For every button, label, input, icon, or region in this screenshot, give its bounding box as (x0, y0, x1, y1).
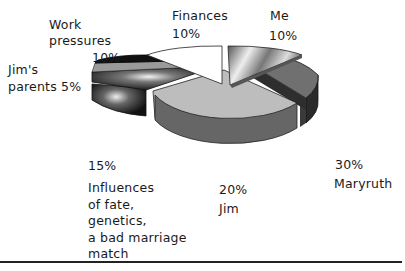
label-work-pressures-pct: 10% (92, 50, 120, 66)
bottom-rule (0, 261, 402, 263)
label-maryruth-pct: 30% (335, 157, 363, 173)
label-work-pressures-2: pressures (49, 33, 111, 49)
label-work-pressures: Work (49, 17, 81, 33)
label-finances: Finances (172, 8, 228, 24)
label-me-pct: 10% (269, 28, 297, 44)
label-maryruth: Maryruth (334, 176, 392, 192)
label-influences: Influences of fate, genetics, a bad marr… (88, 180, 187, 263)
label-me: Me (270, 8, 289, 24)
label-finances-pct: 10% (172, 26, 200, 42)
label-influences-pct: 15% (88, 158, 116, 174)
label-jims-parents-2: parents 5% (8, 79, 81, 95)
label-jim-pct: 20% (219, 182, 247, 198)
label-jims-parents: Jim's (8, 62, 38, 78)
label-jim: Jim (219, 201, 239, 217)
